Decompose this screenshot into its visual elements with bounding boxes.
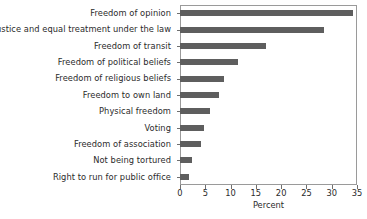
category-tick-mark (177, 177, 181, 178)
value-axis-title: Percent (180, 201, 357, 209)
category-label-row: Voting (0, 120, 176, 136)
category-tick-row (174, 21, 181, 37)
category-tick-mark (177, 160, 181, 161)
category-tick-row (174, 169, 181, 185)
value-tick-label: 0 (177, 189, 182, 197)
value-tick-label: 25 (301, 189, 312, 197)
category-tick-mark (177, 46, 181, 47)
category-tick-row (174, 136, 181, 152)
category-label-row: Freedom of transit (0, 38, 176, 54)
value-tick-label: 30 (326, 189, 337, 197)
value-tick-label: 10 (225, 189, 236, 197)
category-label: Voting (145, 124, 172, 132)
category-label: Right to run for public office (53, 173, 171, 181)
category-tick-row (174, 38, 181, 54)
category-tick-mark (177, 144, 181, 145)
category-label: Freedom of religious beliefs (55, 74, 171, 82)
category-label: Freedom of opinion (90, 9, 171, 17)
category-label-row: Freedom of political beliefs (0, 54, 176, 70)
category-tick-row (174, 103, 181, 119)
category-tick-row (174, 87, 181, 103)
category-label: Freedom of political beliefs (58, 58, 171, 66)
category-tick-row (174, 120, 181, 136)
category-label-row: Freedom of opinion (0, 5, 176, 21)
category-label: Not being tortured (93, 156, 171, 164)
value-tick-label: 20 (276, 189, 287, 197)
category-label-row: Justice and equal treatment under the la… (0, 21, 176, 37)
category-tick-row (174, 70, 181, 86)
category-tick-mark (177, 79, 181, 80)
category-tick-mark (177, 30, 181, 31)
horizontal-bar-chart: Freedom of opinionJustice and equal trea… (0, 0, 367, 219)
category-label-row: Physical freedom (0, 103, 176, 119)
category-tick-row (174, 54, 181, 70)
category-tick-mark (177, 95, 181, 96)
category-label: Justice and equal treatment under the la… (0, 25, 171, 33)
category-label: Freedom of association (74, 140, 171, 148)
category-axis-ticks (174, 5, 181, 185)
value-tick-label: 15 (251, 189, 262, 197)
plot-area-frame (180, 5, 357, 185)
category-label: Freedom to own land (83, 91, 171, 99)
category-label: Freedom of transit (94, 42, 171, 50)
category-tick-mark (177, 13, 181, 14)
category-axis-labels: Freedom of opinionJustice and equal trea… (0, 5, 176, 185)
category-label-row: Freedom of religious beliefs (0, 70, 176, 86)
category-label-row: Freedom to own land (0, 87, 176, 103)
category-label: Physical freedom (99, 107, 171, 115)
category-label-row: Freedom of association (0, 136, 176, 152)
value-tick-label: 5 (203, 189, 208, 197)
category-label-row: Right to run for public office (0, 169, 176, 185)
category-label-row: Not being tortured (0, 152, 176, 168)
value-axis: 05101520253035 (180, 185, 357, 201)
category-tick-row (174, 5, 181, 21)
category-tick-mark (177, 111, 181, 112)
category-tick-mark (177, 62, 181, 63)
value-tick-label: 35 (352, 189, 363, 197)
category-tick-row (174, 152, 181, 168)
category-tick-mark (177, 128, 181, 129)
